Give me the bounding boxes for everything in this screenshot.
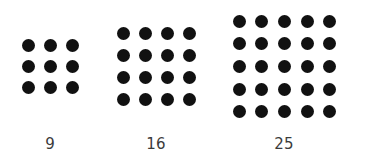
square-numbers-diagram: 9 16 25 <box>0 0 377 167</box>
dot <box>323 37 336 50</box>
dot <box>255 15 268 28</box>
dot <box>233 37 246 50</box>
dot <box>139 93 152 106</box>
dot <box>161 49 174 62</box>
dot-grid-25 <box>228 10 341 123</box>
dot <box>278 105 291 118</box>
dot <box>233 60 246 73</box>
dot <box>66 60 79 73</box>
dot <box>139 71 152 84</box>
dot <box>233 105 246 118</box>
dot-array-label-2: 16 <box>126 136 186 152</box>
dot <box>161 93 174 106</box>
dot <box>161 71 174 84</box>
dot <box>139 49 152 62</box>
dot <box>117 27 130 40</box>
dot <box>66 81 79 94</box>
dot <box>278 83 291 96</box>
dot <box>301 15 314 28</box>
dot <box>278 60 291 73</box>
dot <box>183 27 196 40</box>
dot <box>44 81 57 94</box>
dot <box>323 15 336 28</box>
dot <box>233 15 246 28</box>
dot <box>323 60 336 73</box>
dot <box>301 105 314 118</box>
dot <box>183 49 196 62</box>
dot <box>301 60 314 73</box>
dot <box>233 83 246 96</box>
dot <box>278 15 291 28</box>
dot <box>183 71 196 84</box>
dot <box>278 37 291 50</box>
dot <box>22 60 35 73</box>
dot <box>255 105 268 118</box>
dot-array-group-3 <box>228 10 341 123</box>
dot <box>323 83 336 96</box>
dot-array-label-1: 9 <box>20 136 80 152</box>
dot <box>66 39 79 52</box>
dot <box>183 93 196 106</box>
dot-grid-9 <box>18 35 83 98</box>
dot-grid-16 <box>112 22 200 110</box>
dot <box>139 27 152 40</box>
dot <box>117 71 130 84</box>
dot <box>44 39 57 52</box>
dot-array-label-3: 25 <box>254 136 314 152</box>
dot <box>117 93 130 106</box>
dot <box>255 60 268 73</box>
dot <box>161 27 174 40</box>
dot-array-group-2 <box>112 22 200 110</box>
dot <box>255 83 268 96</box>
dot <box>301 83 314 96</box>
dot <box>22 81 35 94</box>
dot <box>22 39 35 52</box>
dot <box>255 37 268 50</box>
dot <box>44 60 57 73</box>
dot-array-group-1 <box>18 35 83 98</box>
dot <box>117 49 130 62</box>
dot <box>323 105 336 118</box>
dot <box>301 37 314 50</box>
